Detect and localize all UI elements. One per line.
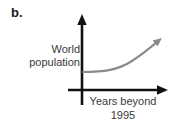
population-growth-curve xyxy=(83,42,157,72)
y-axis-arrowhead xyxy=(77,14,86,25)
y-axis-label-line-1: World xyxy=(8,43,80,56)
x-axis-label-line-1: Years beyond xyxy=(86,95,160,109)
x-axis-label: Years beyond 1995 xyxy=(86,95,160,122)
figure-container: b. World population Years beyond 1995 xyxy=(0,0,176,130)
x-axis-arrowhead xyxy=(157,85,168,94)
x-axis-label-line-2: 1995 xyxy=(86,109,160,123)
y-axis-label-line-2: population xyxy=(8,56,80,69)
y-axis-label: World population xyxy=(8,43,80,69)
